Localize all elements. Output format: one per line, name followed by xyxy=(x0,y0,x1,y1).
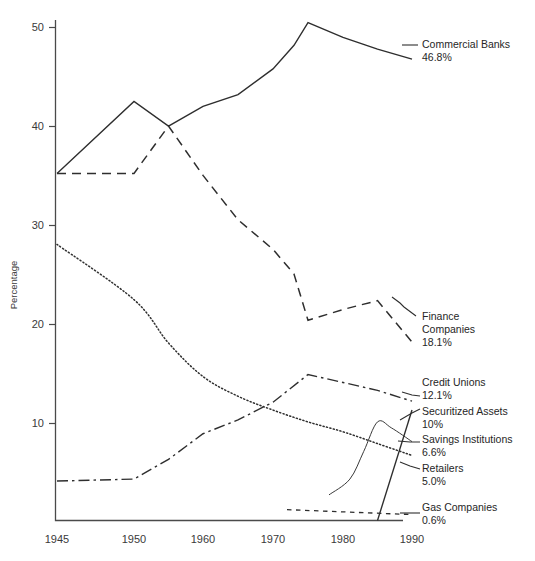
leader-savings-institutions xyxy=(398,441,420,442)
y-tick-label-40: 40 xyxy=(32,120,44,132)
x-tick-label-1990: 1990 xyxy=(400,533,424,545)
x-tick-labels: 1945 1950 1960 1970 1980 1990 xyxy=(45,533,424,545)
label-commercial-banks-value: 46.8% xyxy=(422,51,452,63)
leader-retailers xyxy=(400,462,420,469)
label-securitized-assets-value: 10% xyxy=(422,418,443,430)
x-tick-label-1960: 1960 xyxy=(191,533,215,545)
x-tick-label-1945: 1945 xyxy=(45,533,69,545)
series-labels: Commercial Banks 46.8% Finance Companies… xyxy=(422,38,512,526)
y-axis-title: Percentage xyxy=(8,261,19,310)
label-gas-companies-name: Gas Companies xyxy=(422,501,497,513)
label-finance-companies-value: 18.1% xyxy=(422,336,452,348)
leader-lines xyxy=(392,45,420,513)
y-tick-label-10: 10 xyxy=(32,417,44,429)
series-line-commercial-banks xyxy=(57,23,412,174)
series-line-finance-companies xyxy=(57,126,412,342)
leader-credit-unions xyxy=(402,392,420,396)
line-chart: 50 40 30 20 10 Percentage 1945 1950 1960… xyxy=(0,0,535,561)
label-retailers-name: Retailers xyxy=(422,462,463,474)
series-line-gas-companies xyxy=(287,510,412,515)
y-tick-label-50: 50 xyxy=(32,21,44,33)
y-tick-label-30: 30 xyxy=(32,219,44,231)
label-savings-institutions-name: Savings Institutions xyxy=(422,433,512,445)
series-line-securitized-assets xyxy=(329,421,412,495)
label-credit-unions-name: Credit Unions xyxy=(422,376,486,388)
series-line-credit-unions xyxy=(57,375,412,481)
y-tick-label-20: 20 xyxy=(32,318,44,330)
label-finance-companies-line2: Companies xyxy=(422,323,475,335)
x-tick-label-1970: 1970 xyxy=(261,533,285,545)
label-retailers-value: 5.0% xyxy=(422,475,446,487)
label-securitized-assets-name: Securitized Assets xyxy=(422,405,508,417)
label-credit-unions-value: 12.1% xyxy=(422,389,452,401)
axes xyxy=(49,20,403,521)
leader-finance-companies xyxy=(392,297,416,316)
label-commercial-banks-name: Commercial Banks xyxy=(422,38,510,50)
chart-canvas: 50 40 30 20 10 Percentage 1945 1950 1960… xyxy=(0,0,535,561)
axis-frame xyxy=(56,20,404,521)
x-tick-label-1950: 1950 xyxy=(122,533,146,545)
label-finance-companies-line1: Finance xyxy=(422,310,460,322)
series-layer xyxy=(57,23,412,521)
label-savings-institutions-value: 6.6% xyxy=(422,446,446,458)
y-tick-labels: 50 40 30 20 10 xyxy=(32,21,44,429)
series-line-savings-institutions xyxy=(57,244,412,455)
x-tick-label-1980: 1980 xyxy=(331,533,355,545)
label-gas-companies-value: 0.6% xyxy=(422,514,446,526)
